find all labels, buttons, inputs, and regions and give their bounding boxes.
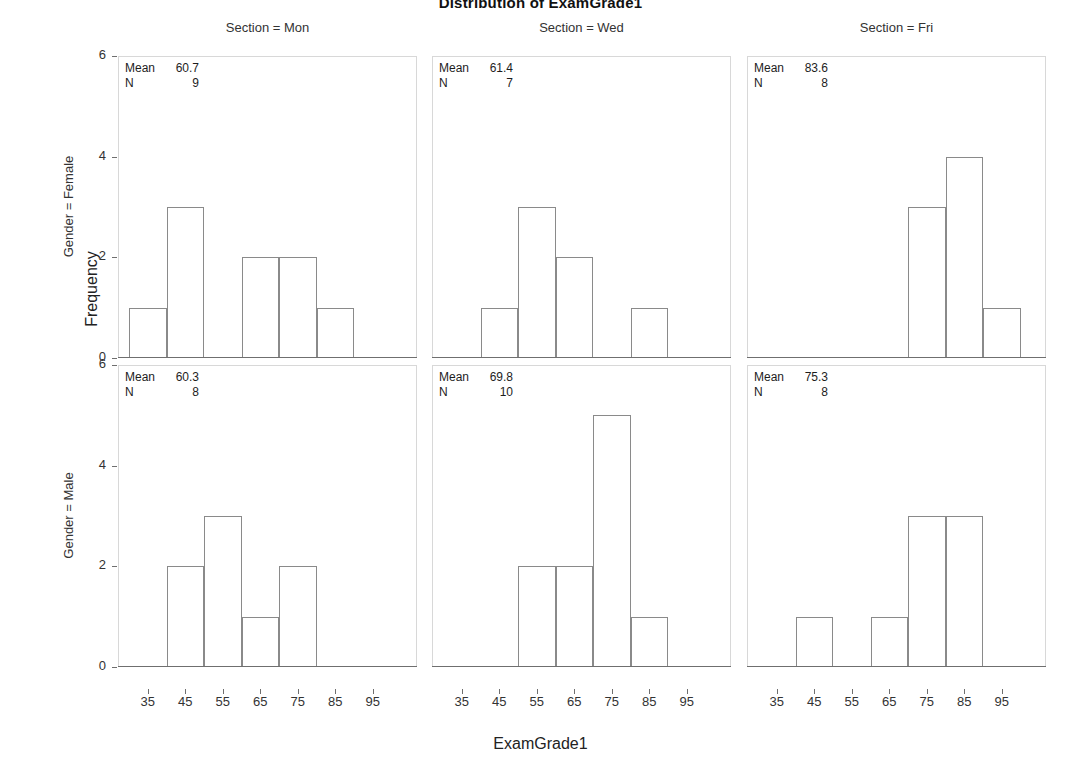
- stat-mean-label: Mean: [439, 61, 479, 76]
- histogram-bar: [983, 308, 1021, 358]
- plot-area: [432, 365, 731, 667]
- x-tick-label: 45: [486, 694, 512, 709]
- panel-baseline: [747, 666, 1046, 667]
- stat-n-value: 7: [479, 76, 513, 91]
- x-tick-mark: [537, 689, 538, 694]
- panel-stats: Mean61.4N7: [439, 61, 513, 91]
- panel-baseline: [747, 357, 1046, 358]
- stat-mean-value: 60.3: [165, 370, 199, 385]
- plot-area: [118, 56, 417, 358]
- histogram-bar: [167, 207, 205, 358]
- x-tick-mark: [223, 689, 224, 694]
- x-tick-label: 85: [951, 694, 977, 709]
- x-tick-mark: [814, 689, 815, 694]
- stat-mean-value: 75.3: [794, 370, 828, 385]
- x-tick-label: 65: [561, 694, 587, 709]
- x-tick-mark: [777, 689, 778, 694]
- x-tick-label: 55: [524, 694, 550, 709]
- panel-stats: Mean83.6N8: [754, 61, 828, 91]
- y-tick-label: 4: [84, 148, 106, 163]
- y-tick-label: 6: [84, 47, 106, 62]
- x-tick-label: 85: [322, 694, 348, 709]
- x-tick-label: 65: [876, 694, 902, 709]
- histogram-bar: [204, 516, 242, 667]
- x-tick-mark: [574, 689, 575, 694]
- stat-n-value: 9: [165, 76, 199, 91]
- stat-n-row: N7: [439, 76, 513, 91]
- histogram-bar: [556, 257, 594, 358]
- stat-n-row: N8: [125, 385, 199, 400]
- y-tick-mark: [112, 257, 117, 258]
- panel-baseline: [118, 357, 417, 358]
- stat-mean-value: 60.7: [165, 61, 199, 76]
- y-tick-mark: [112, 667, 117, 668]
- y-tick-label: 6: [84, 356, 106, 371]
- y-tick-mark: [112, 56, 117, 57]
- page-title: Distribution of ExamGrade1: [0, 0, 1081, 11]
- stat-mean-label: Mean: [754, 61, 794, 76]
- x-tick-mark: [462, 689, 463, 694]
- stat-mean-label: Mean: [439, 370, 479, 385]
- x-tick-label: 95: [989, 694, 1015, 709]
- y-tick-mark: [112, 358, 117, 359]
- stat-mean-value: 69.8: [479, 370, 513, 385]
- x-tick-label: 95: [674, 694, 700, 709]
- x-tick-label: 55: [210, 694, 236, 709]
- x-tick-mark: [964, 689, 965, 694]
- x-tick-mark: [649, 689, 650, 694]
- x-tick-mark: [889, 689, 890, 694]
- x-tick-mark: [499, 689, 500, 694]
- y-tick-mark: [112, 466, 117, 467]
- x-tick-label: 35: [449, 694, 475, 709]
- x-tick-label: 75: [914, 694, 940, 709]
- panel-baseline: [432, 357, 731, 358]
- x-tick-label: 45: [801, 694, 827, 709]
- x-tick-label: 75: [599, 694, 625, 709]
- histogram-bar: [279, 566, 317, 667]
- histogram-bar: [242, 257, 280, 358]
- stat-mean-label: Mean: [125, 61, 165, 76]
- column-header-2: Section = Fri: [747, 20, 1046, 36]
- plot-area: [118, 365, 417, 667]
- panel-r0-c1: Mean61.4N7: [432, 56, 731, 358]
- x-tick-label: 85: [636, 694, 662, 709]
- histogram-bar: [167, 566, 205, 667]
- stat-mean-value: 83.6: [794, 61, 828, 76]
- plot-area: [432, 56, 731, 358]
- stat-mean-label: Mean: [754, 370, 794, 385]
- column-header-0: Section = Mon: [118, 20, 417, 36]
- stat-n-row: N9: [125, 76, 199, 91]
- row-label-text-0: Gender = Female: [61, 137, 76, 277]
- histogram-bar: [556, 566, 594, 667]
- histogram-bar: [242, 617, 280, 667]
- histogram-bar: [593, 415, 631, 667]
- x-tick-label: 45: [172, 694, 198, 709]
- plot-area: [747, 365, 1046, 667]
- histogram-bar: [518, 566, 556, 667]
- y-tick-mark: [112, 365, 117, 366]
- stat-n-row: N8: [754, 76, 828, 91]
- histogram-bar: [946, 157, 984, 358]
- histogram-bar: [631, 308, 669, 358]
- x-tick-mark: [260, 689, 261, 694]
- histogram-bar: [871, 617, 909, 667]
- x-tick-mark: [185, 689, 186, 694]
- histogram-bar: [518, 207, 556, 358]
- histogram-bar: [796, 617, 834, 667]
- column-header-1: Section = Wed: [432, 20, 731, 36]
- stat-n-label: N: [125, 385, 165, 400]
- histogram-bar: [631, 617, 669, 667]
- panel-baseline: [118, 666, 417, 667]
- panel-r0-c0: Mean60.7N9: [118, 56, 417, 358]
- y-tick-mark: [112, 566, 117, 567]
- stat-n-row: N10: [439, 385, 513, 400]
- stat-n-label: N: [125, 76, 165, 91]
- x-tick-label: 95: [360, 694, 386, 709]
- panel-stats: Mean75.3N8: [754, 370, 828, 400]
- histogram-bar: [317, 308, 355, 358]
- stat-mean-value: 61.4: [479, 61, 513, 76]
- x-tick-label: 65: [247, 694, 273, 709]
- stat-mean-row: Mean83.6: [754, 61, 828, 76]
- row-label-text-1: Gender = Male: [61, 446, 76, 586]
- stat-n-label: N: [754, 76, 794, 91]
